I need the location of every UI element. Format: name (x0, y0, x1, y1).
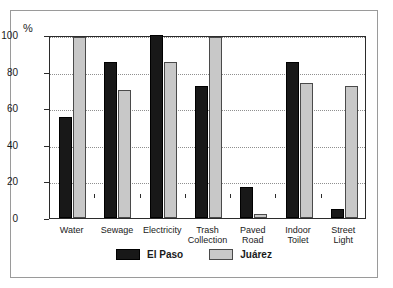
x-axis-tick-mark (230, 194, 231, 198)
bar (209, 37, 222, 218)
plot-area (49, 36, 366, 219)
x-axis-tick-mark (185, 194, 186, 198)
y-axis-tick-mark (44, 219, 49, 220)
bar (300, 83, 313, 218)
y-axis-tick-label: 40 (0, 141, 18, 151)
x-axis-category-label: Indoor Toilet (275, 225, 320, 245)
y-axis-tick-label: 0 (0, 214, 18, 224)
bar (195, 86, 208, 218)
bar (240, 187, 253, 218)
x-axis-category-label: Water (49, 225, 94, 235)
bar (345, 86, 358, 218)
bar (150, 35, 163, 218)
bar (286, 62, 299, 218)
bar (118, 90, 131, 218)
bar (331, 209, 344, 218)
y-axis-tick-label: 60 (0, 104, 18, 114)
legend-item: Juárez (209, 249, 272, 260)
x-axis-tick-mark (140, 194, 141, 198)
chart-figure: % 020406080100 WaterSewageElectricityTra… (10, 10, 378, 278)
x-axis-category-label: Street Light (321, 225, 366, 245)
y-axis-tick-label: 100 (0, 31, 18, 41)
legend-item: El Paso (116, 249, 183, 260)
legend-label: Juárez (240, 250, 272, 260)
x-axis-tick-mark (275, 194, 276, 198)
y-axis-unit-label: % (23, 23, 33, 34)
x-axis-category-label: Trash Collection (185, 225, 230, 245)
y-axis-tick-label: 20 (0, 177, 18, 187)
bar (254, 214, 267, 218)
chart-legend: El PasoJuárez (11, 249, 377, 260)
bar (104, 62, 117, 218)
bar (73, 37, 86, 218)
x-axis-tick-mark (321, 194, 322, 198)
bar (164, 62, 177, 218)
x-axis-category-label: Electricity (140, 225, 185, 235)
bar-group-container (50, 37, 365, 218)
x-axis-category-label: Sewage (94, 225, 139, 235)
y-axis-tick-label: 80 (0, 68, 18, 78)
x-axis-category-label: Paved Road (230, 225, 275, 245)
legend-swatch (116, 249, 140, 260)
legend-swatch (209, 249, 233, 260)
x-axis-tick-mark (94, 194, 95, 198)
bar (59, 117, 72, 218)
legend-label: El Paso (147, 250, 183, 260)
